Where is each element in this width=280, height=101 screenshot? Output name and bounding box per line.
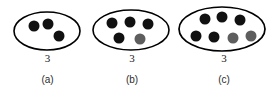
caption-b: (b) xyxy=(88,74,176,85)
dot-c-5 xyxy=(209,32,220,43)
dot-c-7-gray xyxy=(246,31,257,42)
ellipse-c xyxy=(0,0,280,60)
group-c: 3 (c) xyxy=(176,0,272,101)
dot-c-6-gray xyxy=(228,33,239,44)
dot-c-2 xyxy=(217,12,228,23)
dot-c-3 xyxy=(235,15,246,26)
count-label-c: 3 xyxy=(176,52,272,64)
caption-a: (a) xyxy=(0,74,95,85)
caption-c: (c) xyxy=(176,74,272,85)
dot-c-1 xyxy=(200,14,211,25)
counting-dots-figure: 3 (a) 3 (b) xyxy=(0,0,280,101)
dot-c-4 xyxy=(191,31,202,42)
